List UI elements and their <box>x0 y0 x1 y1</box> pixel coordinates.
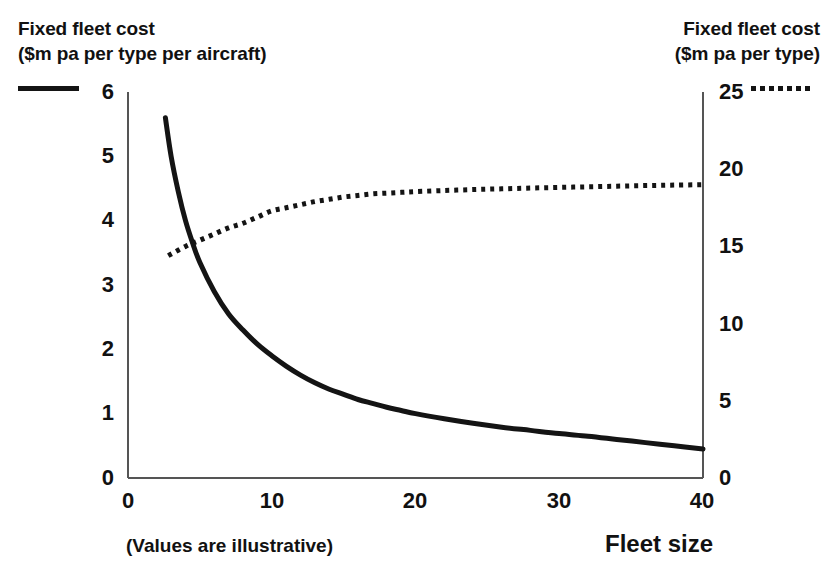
plot-area <box>0 0 838 583</box>
values-illustrative-note: (Values are illustrative) <box>126 535 333 557</box>
series-line-fixed-cost-per-aircraft <box>165 118 703 449</box>
x-axis-title: Fleet size <box>605 530 713 558</box>
chart-figure: Fixed fleet cost ($m pa per type per air… <box>0 0 838 583</box>
series-line-fixed-cost-per-type <box>168 185 703 256</box>
